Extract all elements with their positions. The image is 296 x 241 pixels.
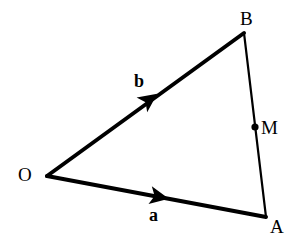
vector-label-a: a — [149, 206, 158, 224]
point-m-marker — [251, 123, 258, 130]
point-label-o: O — [18, 165, 32, 184]
vector-triangle-diagram: O A B M a b — [0, 0, 296, 241]
point-label-b: B — [240, 9, 253, 28]
diagram-canvas — [0, 0, 296, 241]
vector-b-line — [47, 33, 244, 176]
point-label-a: A — [270, 217, 284, 236]
vector-label-b: b — [134, 72, 144, 90]
point-label-m: M — [261, 118, 278, 137]
